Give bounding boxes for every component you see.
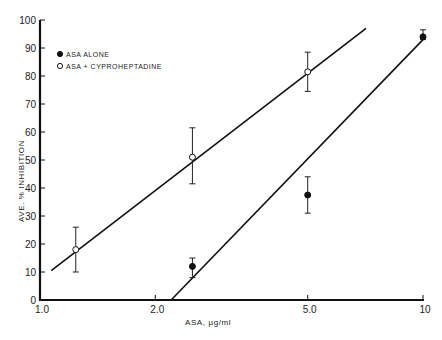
y-tick-label: 80 xyxy=(25,71,37,82)
y-tick-label: 70 xyxy=(25,99,37,110)
y-tick-label: 90 xyxy=(25,43,37,54)
y-tick-label: 50 xyxy=(25,155,37,166)
ticks: 01020304050607080901001.02.05.010 xyxy=(19,15,431,316)
x-tick-label: 2.0 xyxy=(150,304,164,315)
fit-line-asa-alone xyxy=(171,40,423,300)
chart: 01020304050607080901001.02.05.010 ASA AL… xyxy=(0,0,442,340)
data-point-asa-cyproheptadine xyxy=(305,69,311,75)
y-axis-title: AVE. % INHIBITION xyxy=(17,140,26,222)
legend-marker-asa-alone xyxy=(57,51,62,56)
y-tick-label: 40 xyxy=(25,183,37,194)
data-point-asa-alone xyxy=(189,263,195,269)
y-tick-label: 100 xyxy=(19,15,36,26)
y-tick-label: 60 xyxy=(25,127,37,138)
x-axis-title: ASA, µg/ml xyxy=(185,318,231,327)
legend-label-asa-alone: ASA ALONE xyxy=(66,51,109,58)
data-point-asa-cyproheptadine xyxy=(189,154,195,160)
x-tick-label: 10 xyxy=(419,304,431,315)
y-tick-label: 30 xyxy=(25,211,37,222)
data-point-asa-alone xyxy=(305,192,311,198)
legend-marker-asa-cyproheptadine xyxy=(57,63,62,68)
x-tick-label: 1.0 xyxy=(35,304,49,315)
data-point-asa-cyproheptadine xyxy=(73,247,79,253)
legend: ASA ALONE ASA + CYPROHEPTADINE xyxy=(57,51,162,70)
legend-label-asa-cyproheptadine: ASA + CYPROHEPTADINE xyxy=(66,63,162,70)
y-tick-label: 20 xyxy=(25,239,37,250)
y-tick-label: 10 xyxy=(25,267,37,278)
x-tick-label: 5.0 xyxy=(303,304,317,315)
data-point-asa-alone xyxy=(420,34,426,40)
